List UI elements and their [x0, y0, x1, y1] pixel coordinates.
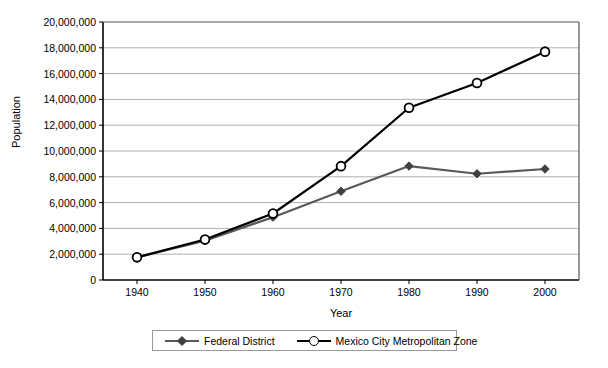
y-axis-tick-label: 12,000,000 — [2, 120, 96, 130]
y-axis-tick-label: 14,000,000 — [2, 94, 96, 104]
y-axis-tick-label: 2,000,000 — [2, 249, 96, 259]
x-axis-tick-label: 2000 — [515, 286, 575, 298]
y-axis-tick-label: 18,000,000 — [2, 43, 96, 53]
data-point-marker-circle — [541, 47, 550, 56]
y-axis-tick-label: 16,000,000 — [2, 69, 96, 79]
x-axis-tick-labels: 1940195019601970198019902000 — [0, 286, 608, 302]
legend-swatch — [297, 335, 331, 347]
data-point-marker-circle — [473, 79, 482, 88]
legend-item[interactable]: Federal District — [165, 331, 275, 350]
x-axis-title: Year — [103, 307, 579, 319]
legend-marker-diamond — [177, 335, 187, 345]
data-point-marker-circle — [133, 253, 142, 262]
x-axis-tick-label: 1950 — [175, 286, 235, 298]
y-axis-tick-label: 20,000,000 — [2, 17, 96, 27]
y-axis-tick-label: 10,000,000 — [2, 146, 96, 156]
x-axis-tick-label: 1970 — [311, 286, 371, 298]
x-axis-tick-label: 1980 — [379, 286, 439, 298]
legend-label: Mexico City Metropolitan Zone — [336, 335, 478, 347]
legend-swatch — [165, 335, 199, 347]
y-axis-tick-label: 8,000,000 — [2, 172, 96, 182]
data-point-marker-circle — [201, 235, 210, 244]
y-axis-tick-labels: 02,000,0004,000,0006,000,0008,000,00010,… — [0, 0, 96, 368]
data-point-marker-circle — [405, 103, 414, 112]
chart-legend: Federal DistrictMexico City Metropolitan… — [152, 330, 457, 351]
data-point-marker-circle — [269, 209, 278, 218]
y-axis-tick-label: 4,000,000 — [2, 223, 96, 233]
y-axis-tick-label: 6,000,000 — [2, 198, 96, 208]
legend-item[interactable]: Mexico City Metropolitan Zone — [297, 331, 478, 350]
population-line-chart: Population 02,000,0004,000,0006,000,0008… — [0, 0, 608, 368]
legend-marker-circle — [309, 336, 319, 346]
legend-label: Federal District — [204, 335, 275, 347]
x-axis-tick-label: 1990 — [447, 286, 507, 298]
y-axis-tick-label: 0 — [2, 275, 96, 285]
x-axis-tick-label: 1960 — [243, 286, 303, 298]
data-point-marker-circle — [337, 162, 346, 171]
x-axis-tick-label: 1940 — [107, 286, 167, 298]
